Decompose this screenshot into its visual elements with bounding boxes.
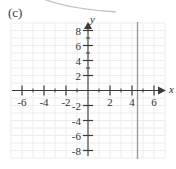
y-axis (83, 22, 93, 156)
y-tick-label-neg4: -4 (59, 115, 81, 126)
y-tick-label-2: 2 (61, 70, 81, 81)
x-tick-label-neg4: -4 (39, 97, 48, 108)
axes (11, 23, 165, 158)
y-tick-label-8: 8 (61, 25, 81, 36)
x-tick-label-2: 2 (107, 97, 113, 108)
plot-area: -6 -4 -2 2 4 6 8 6 4 2 -2 -4 -6 -8 x y (11, 23, 165, 158)
x-tick-label-4: 4 (129, 97, 135, 108)
x-axis-label: x (169, 84, 174, 95)
y-tick-label-neg8: -8 (59, 145, 81, 156)
x-tick-label-6: 6 (151, 97, 157, 108)
panel-label: (c) (8, 6, 22, 19)
y-tick-label-6: 6 (61, 40, 81, 51)
y-tick-label-neg6: -6 (59, 130, 81, 141)
graph-figure: (c) (0, 0, 176, 169)
y-tick-label-4: 4 (61, 55, 81, 66)
x-tick-label-neg6: -6 (17, 97, 26, 108)
y-tick-label-neg2: -2 (59, 100, 81, 111)
y-axis-label: y (90, 14, 95, 25)
x-axis (12, 86, 166, 96)
